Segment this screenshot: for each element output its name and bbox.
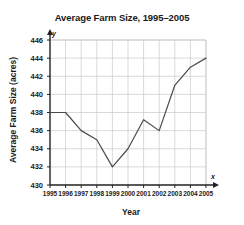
chart-figure: Average Farm Size, 1995–2005 Average Far…	[0, 0, 244, 225]
y-tick-label: 430	[19, 181, 43, 190]
y-tick-label: 438	[19, 108, 43, 117]
gridlines	[50, 40, 206, 185]
x-tick-label: 2005	[193, 190, 219, 197]
tick-marks	[47, 40, 206, 188]
y-tick-label: 444	[19, 54, 43, 63]
y-tick-label: 434	[19, 144, 43, 153]
y-axis-arrow	[47, 29, 53, 35]
y-tick-label: 440	[19, 90, 43, 99]
axis-arrows	[47, 29, 219, 188]
x-axis-arrow	[213, 182, 219, 188]
y-tick-label: 432	[19, 162, 43, 171]
y-tick-label: 442	[19, 72, 43, 81]
y-tick-label: 436	[19, 126, 43, 135]
y-tick-label: 446	[19, 36, 43, 45]
